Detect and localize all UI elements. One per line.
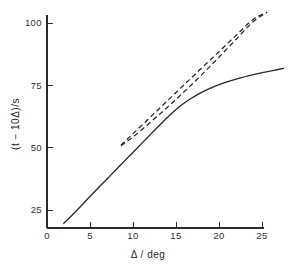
data-series-group: [64, 12, 284, 223]
x-axis-title: Δ / deg: [131, 249, 166, 260]
series-dashed-lower: [121, 12, 267, 145]
x-tick-label: 20: [213, 230, 224, 241]
y-axis-tick-labels: 255075100: [25, 17, 42, 215]
y-axis-title: (t − 10Δ)/s: [10, 98, 21, 150]
y-tick-label: 25: [31, 204, 42, 215]
y-tick-label: 50: [31, 142, 42, 153]
x-axis-ticks: [47, 222, 262, 228]
x-tick-label: 10: [127, 230, 138, 241]
y-axis-ticks: [47, 23, 53, 210]
x-tick-label: 5: [87, 230, 93, 241]
figure-panel: 255075100 0510152025 Δ / deg (t − 10Δ)/s: [0, 0, 297, 268]
y-tick-label: 75: [31, 80, 42, 91]
y-tick-label: 100: [25, 17, 42, 28]
x-tick-label: 25: [256, 230, 267, 241]
series-solid-curve: [64, 68, 284, 223]
series-dashed-upper: [121, 12, 267, 145]
x-axis-tick-labels: 0510152025: [44, 230, 268, 241]
travel-time-chart: 255075100 0510152025 Δ / deg (t − 10Δ)/s: [0, 0, 297, 268]
x-tick-label: 0: [44, 230, 50, 241]
x-tick-label: 15: [170, 230, 181, 241]
